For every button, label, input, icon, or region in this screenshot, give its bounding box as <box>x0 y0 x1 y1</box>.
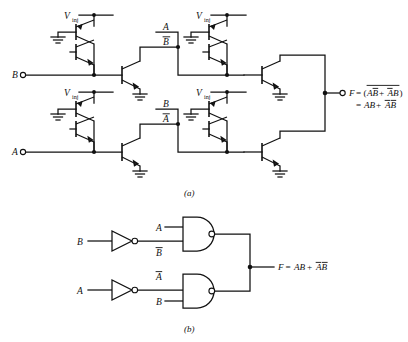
label-b-lower-text: B <box>163 99 169 109</box>
nand1-bubble <box>209 231 215 237</box>
output-f-symbol: F <box>348 88 355 98</box>
vinj-sub-1: inj <box>72 16 79 23</box>
output-line2-term2: AB <box>384 100 397 110</box>
ground-symbol <box>184 37 198 43</box>
npn8-emitter-arrow <box>274 161 278 165</box>
inverter-input-b-label: B <box>77 237 83 247</box>
npn6-collector-slant <box>122 138 140 146</box>
output-line2-equals: = <box>356 100 361 110</box>
npn4-collector-slant <box>262 61 280 69</box>
npn4-emitter-arrow <box>274 84 278 88</box>
logic-output-f-symbol: F <box>277 262 284 272</box>
junction-dot <box>92 150 96 154</box>
npn2-collector-wire <box>140 47 178 61</box>
inverter-b-group[interactable]: B <box>77 231 183 251</box>
vinj-label-2: V inj <box>196 11 211 23</box>
junction-dot <box>225 73 229 77</box>
output-line2-plus: + <box>376 100 381 110</box>
logic-output-equals: = <box>286 262 291 272</box>
pnp2-base-ground-lead <box>191 32 209 37</box>
stage-upper-middle-npn <box>122 32 244 100</box>
stage-output-lower <box>244 93 325 177</box>
npn6-emitter-arrow <box>134 161 138 165</box>
nand1-input-bbar-label: B <box>156 248 162 258</box>
inverter-a-group[interactable]: A <box>76 280 183 300</box>
pnp3-emitter-arrow <box>78 102 81 105</box>
output-f-terminal[interactable] <box>340 90 345 95</box>
output-line1-term2: AB <box>387 88 400 98</box>
vinj-sub-3: inj <box>72 93 79 100</box>
output-equals: = <box>356 88 361 98</box>
inverter-input-a-label: A <box>76 286 83 296</box>
vinj-label-4: V inj <box>196 88 211 100</box>
output-line1-plus: + <box>379 88 384 98</box>
npn7-collector-slant <box>209 117 227 124</box>
nand-gate-2-group[interactable]: A B <box>155 267 250 308</box>
output-close-paren: ) <box>400 88 403 98</box>
junction-dot <box>92 73 96 77</box>
pnp4-base-ground-lead <box>191 109 209 114</box>
vinj-text-2: V <box>196 11 203 21</box>
npn8-collector-slant <box>262 138 280 146</box>
npn4-collector-to-output <box>280 55 325 93</box>
output-f-group[interactable]: F = ( AB + AB ) = AB + AB <box>323 85 403 110</box>
inverter-b-triangle[interactable] <box>112 231 132 251</box>
input-b-group[interactable]: B <box>12 70 122 80</box>
pnp1-base-ground-lead <box>58 32 76 37</box>
pnp4-emitter-arrow <box>211 102 214 105</box>
ground-symbol <box>273 94 287 100</box>
ground-symbol <box>133 171 147 177</box>
logic-output-group[interactable]: F = AB + AB <box>248 262 328 272</box>
output-line1-term1: AB <box>366 88 379 98</box>
npn8-collector-to-output <box>280 93 325 138</box>
stage-output-upper <box>244 55 325 100</box>
input-b-label: B <box>12 70 18 80</box>
npn6-collector-wire <box>140 124 178 138</box>
npn2-collector-slant <box>122 61 140 69</box>
caption-b: (b) <box>184 324 195 334</box>
caption-a: (a) <box>184 188 195 198</box>
ground-symbol <box>133 94 147 100</box>
npn3-emitter-arrow <box>222 61 226 65</box>
input-a-label: A <box>11 147 18 157</box>
internal-label-a-upper: A <box>162 22 169 32</box>
npn1-collector-slant <box>76 40 94 47</box>
label-a-upper-text: A <box>162 22 169 32</box>
stage-upper-right: V inj <box>184 11 246 77</box>
logic-output-term2: AB <box>315 262 328 272</box>
inverter-a-triangle[interactable] <box>112 280 132 300</box>
stage-lower-right: V inj <box>184 88 246 154</box>
nand2-input-abar-label: A <box>155 272 162 282</box>
ground-symbol <box>273 171 287 177</box>
vinj-text-3: V <box>64 88 71 98</box>
logic-output-plus: + <box>307 262 312 272</box>
figure-container: V inj <box>0 0 408 342</box>
nand-gate-1-group[interactable]: A B <box>155 217 250 267</box>
output-line2-term1: AB <box>363 100 376 110</box>
pnp3-base-ground-lead <box>58 109 76 114</box>
pnp3-collector-slant <box>76 113 94 121</box>
input-a-group[interactable]: A <box>11 147 122 157</box>
pnp1-emitter-arrow <box>78 25 81 28</box>
bbar-net-to-right-stage <box>178 47 244 75</box>
part-b-group: B A B A A <box>76 217 328 334</box>
logic-output-term1: AB <box>293 262 306 272</box>
vinj-sub-4: inj <box>204 93 211 100</box>
junction-dot <box>225 150 229 154</box>
vinj-text-1: V <box>64 11 71 21</box>
label-abar-lower-text: A <box>162 114 169 124</box>
input-b-terminal[interactable] <box>20 72 25 77</box>
npn5-collector-slant <box>76 117 94 124</box>
pnp1-collector-slant <box>76 36 94 44</box>
ground-symbol <box>51 114 65 120</box>
internal-label-bbar-upper: B <box>163 37 171 47</box>
internal-label-abar-lower: A <box>162 114 170 124</box>
ground-symbol <box>184 114 198 120</box>
pnp4-collector-slant <box>209 113 227 121</box>
vinj-label-1: V inj <box>64 11 79 23</box>
pnp2-collector-slant <box>209 36 227 44</box>
input-a-terminal[interactable] <box>20 149 25 154</box>
npn5-emitter-arrow <box>89 138 93 142</box>
inverter-a-bubble <box>132 287 138 293</box>
ground-symbol <box>51 37 65 43</box>
